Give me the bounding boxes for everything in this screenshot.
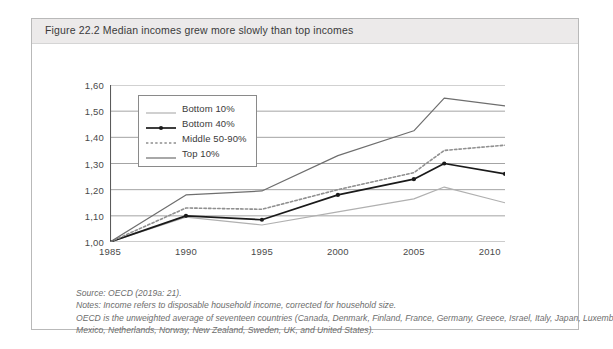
series-marker-bottom40 <box>336 193 340 197</box>
y-tick-label: 1,50 <box>85 106 104 117</box>
y-tick-label: 1,30 <box>85 158 104 169</box>
x-tick-label: 1985 <box>99 246 121 257</box>
legend-item-middle: Middle 50-90% <box>146 131 247 146</box>
x-tick-label: 1990 <box>175 246 197 257</box>
x-axis-tick-labels: 198519901995200020052010 <box>110 246 505 260</box>
note-line-2: OECD is the unweighted average of sevent… <box>76 312 576 324</box>
series-line-bottom40 <box>110 164 505 243</box>
legend-label-bottom10: Bottom 10% <box>182 103 235 114</box>
note-line-1: Notes: Income refers to disposable house… <box>76 299 576 311</box>
legend-swatch-top10 <box>146 149 176 159</box>
figure-title: Figure 22.2 Median incomes grew more slo… <box>45 24 353 36</box>
y-tick-label: 1,20 <box>85 184 104 195</box>
legend-swatch-middle <box>146 134 176 144</box>
x-tick-label: 2005 <box>403 246 425 257</box>
legend-item-bottom10: Bottom 10% <box>146 101 247 116</box>
chart-legend: Bottom 10%Bottom 40%Middle 50-90%Top 10% <box>138 95 257 167</box>
x-tick-label: 1995 <box>251 246 273 257</box>
legend-label-bottom40: Bottom 40% <box>182 118 235 129</box>
figure-container: Figure 22.2 Median incomes grew more slo… <box>31 18 579 330</box>
series-marker-bottom40 <box>412 177 416 181</box>
figure-title-bar: Figure 22.2 Median incomes grew more slo… <box>32 19 578 44</box>
series-marker-bottom40 <box>184 214 188 218</box>
y-tick-label: 1,10 <box>85 210 104 221</box>
legend-swatch-bottom10 <box>146 104 176 114</box>
series-marker-bottom40 <box>503 172 505 176</box>
series-marker-bottom40 <box>260 218 264 222</box>
y-tick-label: 1,40 <box>85 132 104 143</box>
figure-notes: Source: OECD (2019a: 21). Notes: Income … <box>76 287 576 337</box>
legend-item-top10: Top 10% <box>146 146 247 161</box>
note-line-3: Mexico, Netherlands, Norway, New Zealand… <box>76 324 576 336</box>
note-source: Source: OECD (2019a: 21). <box>76 287 576 299</box>
legend-swatch-bottom40 <box>146 119 176 129</box>
x-tick-label: 2010 <box>479 246 501 257</box>
legend-label-middle: Middle 50-90% <box>182 133 247 144</box>
legend-label-top10: Top 10% <box>182 148 220 159</box>
x-tick-label: 2000 <box>327 246 349 257</box>
legend-item-bottom40: Bottom 40% <box>146 116 247 131</box>
y-tick-label: 1,60 <box>85 80 104 91</box>
series-line-bottom10 <box>110 187 505 242</box>
series-marker-bottom40 <box>442 161 446 165</box>
y-axis-tick-labels: 1,001,101,201,301,401,501,60 <box>73 85 104 242</box>
